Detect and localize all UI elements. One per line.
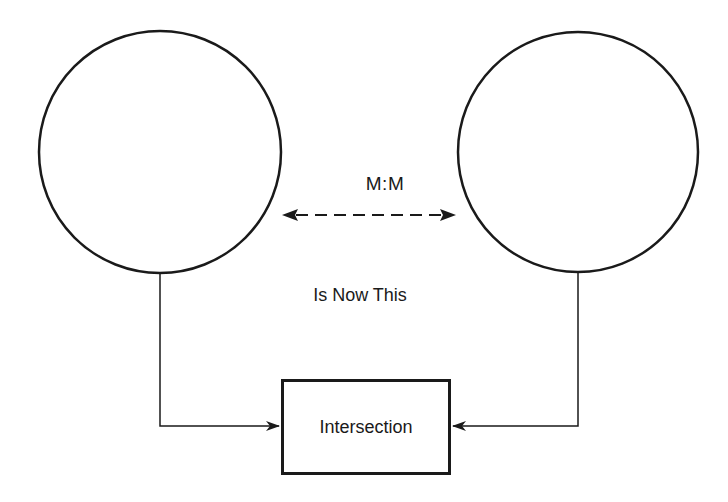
right-entity-circle <box>458 32 698 272</box>
right-connector-arrow <box>453 272 578 426</box>
mm-relationship-arrow <box>282 209 456 221</box>
left-entity-circle <box>39 31 281 273</box>
transition-text: Is Now This <box>260 285 460 306</box>
intersection-label: Intersection <box>319 417 412 438</box>
relationship-label: M:M <box>300 173 470 195</box>
intersection-box: Intersection <box>281 379 451 475</box>
